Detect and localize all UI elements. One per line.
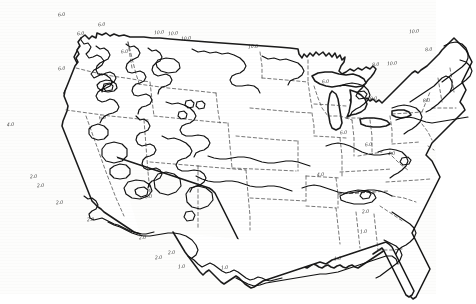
contour-label: 2.0 [155, 254, 162, 260]
contour-label: 6.0 [365, 141, 372, 147]
contour-label: 10.0 [409, 28, 419, 35]
contour-label: 8.0 [425, 46, 432, 52]
contour-label: 2.0 [139, 234, 146, 240]
contour-label: 2.0 [30, 173, 37, 179]
contour-map-figure [40, 16, 476, 304]
contour-label: 2.0 [37, 182, 44, 188]
contour-line-co-lobe [186, 186, 213, 209]
contour-label: 6.0 [340, 129, 347, 135]
contour-label: 6.0 [121, 48, 128, 54]
contour-label: 4.0 [7, 121, 14, 127]
contour-label: 10.0 [168, 30, 178, 37]
contour-label: 6.0 [322, 78, 329, 84]
contour-label: 4.0 [317, 171, 324, 177]
contour-label: 1.0 [334, 255, 341, 261]
map-svg [40, 16, 476, 304]
contour-label: 6.0 [58, 11, 66, 18]
contour-label: 2.0 [87, 216, 94, 222]
contour-label: 2.0 [168, 249, 175, 255]
contour-label: 2.0 [56, 199, 63, 205]
contour-label: 10.0 [248, 43, 258, 50]
contour-label: 6.0 [145, 193, 152, 199]
contour-label: 8.0 [372, 61, 379, 67]
contour-label: 6.0 [99, 114, 106, 120]
contour-label: 10.0 [154, 29, 164, 36]
contour-label: 8.0 [423, 97, 430, 103]
contour-label: 1.0 [178, 263, 185, 269]
contour-label: 2.0 [362, 208, 369, 214]
contour-label: 6.0 [98, 21, 106, 28]
title-strip [0, 0, 436, 9]
contour-label: 1.0 [221, 264, 228, 270]
contour-label: 10.0 [387, 60, 397, 67]
contour-label: 6.0 [77, 30, 85, 37]
contour-label: 10.0 [181, 35, 191, 42]
contour-label: 4.0 [388, 150, 395, 156]
contour-label: 1.0 [360, 228, 367, 234]
contour-label: 8.0 [370, 95, 377, 101]
contour-closed-az-6 [184, 211, 195, 221]
contour-label: 6.0 [58, 65, 65, 71]
